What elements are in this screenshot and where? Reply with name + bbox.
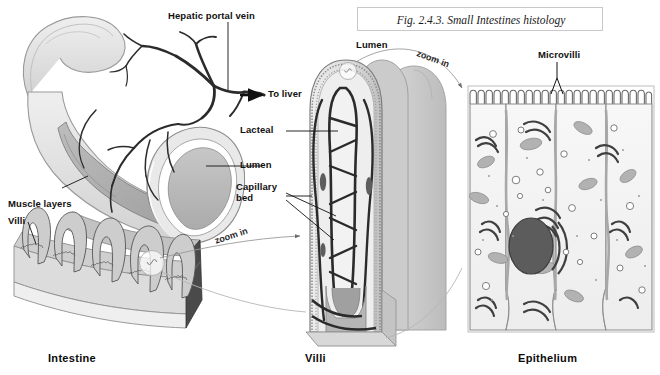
- label-muscle-layers: Muscle layers: [8, 199, 72, 210]
- label-lumen-top: Lumen: [356, 40, 388, 51]
- label-to-liver: To liver: [268, 89, 302, 100]
- figure-title: Fig. 2.4.3. Small Intestines histology: [358, 8, 604, 32]
- nucleus: [509, 218, 553, 274]
- label-capillary-bed-line1: Capillary: [236, 181, 277, 192]
- label-capillary-bed-line2: bed: [236, 192, 253, 203]
- columnar-cells: [470, 104, 652, 330]
- label-microvilli: Microvilli: [538, 50, 580, 61]
- label-capillary-bed: Capillary bed: [236, 182, 284, 203]
- label-lumen-left: Lumen: [240, 160, 272, 171]
- figure-canvas: Fig. 2.4.3. Small Intestines histology H…: [0, 0, 660, 375]
- intestine-loop: [23, 17, 125, 100]
- caption-epithelium: Epithelium: [518, 352, 577, 364]
- label-lacteal: Lacteal: [240, 125, 273, 136]
- label-villi: Villi: [8, 216, 25, 227]
- main-villus: [310, 60, 382, 332]
- intestine-cut-end: [147, 127, 245, 243]
- panel-intestine-artwork: [14, 17, 306, 328]
- caption-villi: Villi: [305, 352, 326, 364]
- label-hepatic-portal-vein: Hepatic portal vein: [168, 11, 255, 22]
- caption-intestine: Intestine: [48, 352, 96, 364]
- figure-title-box: Fig. 2.4.3. Small Intestines histology: [357, 7, 603, 31]
- panel-epithelium-artwork: [468, 62, 654, 332]
- microvilli-border: [470, 90, 652, 104]
